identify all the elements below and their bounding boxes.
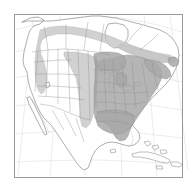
bahamas-south xyxy=(160,150,167,154)
graticule-meridian xyxy=(170,14,188,170)
bahamas-north xyxy=(144,141,151,146)
range-core-upper-midwest xyxy=(94,52,126,70)
jamaica xyxy=(156,166,163,169)
yucatan-offshore xyxy=(110,149,116,153)
range-map-figure: North America distribution map Lambert c… xyxy=(0,0,196,191)
hispaniola xyxy=(170,162,182,167)
bahamas-central xyxy=(152,145,159,150)
map-canvas xyxy=(0,0,196,191)
